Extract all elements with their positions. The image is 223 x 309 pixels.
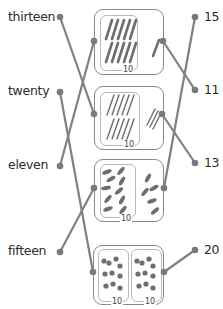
box-pencils-11[interactable]: 10 — [94, 9, 164, 75]
number-20[interactable]: 20 — [204, 243, 219, 257]
box-cherries-20[interactable]: 10 10 — [93, 245, 164, 305]
number-15[interactable]: 15 — [204, 10, 219, 24]
word-fifteen[interactable]: fifteen — [8, 244, 46, 258]
word-twenty[interactable]: twenty — [8, 84, 49, 98]
word-thirteen[interactable]: thirteen — [8, 10, 55, 24]
pencils-icon — [95, 10, 165, 76]
cherries-icon — [94, 246, 165, 306]
box-carrots-15[interactable]: 10 — [94, 159, 164, 222]
carrots-icon — [95, 160, 165, 223]
box-straws-13[interactable]: 10 — [94, 86, 164, 150]
straws-icon — [95, 87, 165, 151]
word-eleven[interactable]: eleven — [8, 158, 48, 172]
number-13[interactable]: 13 — [204, 156, 219, 170]
number-11[interactable]: 11 — [204, 83, 219, 97]
